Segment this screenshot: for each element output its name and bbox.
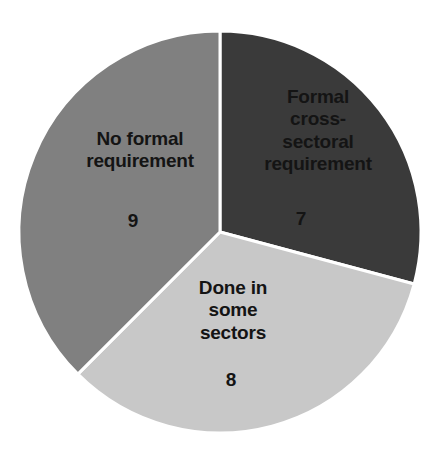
pie-chart: Formal cross- sectoral requirement 7 Don…	[0, 0, 438, 451]
pie-chart-canvas	[0, 0, 438, 451]
